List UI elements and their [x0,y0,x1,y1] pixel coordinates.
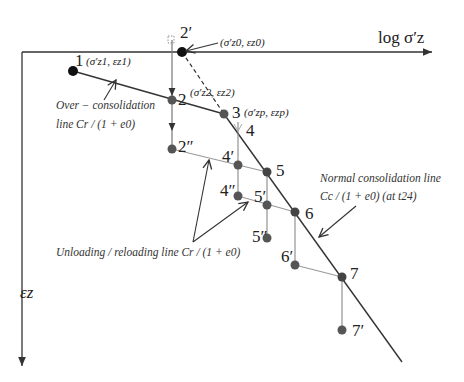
label-2p: 2′ [180,23,192,42]
pointer-unloading-2 [193,202,248,242]
normal-consolidation-text-1: Normal consolidation line [319,172,441,184]
small-marker [168,36,174,43]
normal-consolidation-text-2: Cc / (1 + e0) (at t24) [320,190,417,203]
label-3: 3 [232,103,241,122]
over-consolidation-text-2: line Cr / (1 + e0) [56,118,135,131]
point-3 [220,110,229,119]
point-4p [234,161,243,170]
label-7: 7 [350,264,359,283]
x-axis-label: log σ′z [378,28,425,47]
label-7p: 7′ [352,321,364,340]
label-5p: 5′ [254,187,266,206]
pointer-unloading-1 [193,160,209,242]
consolidation-diagram: log σ′z εz 1 (σ′z1, εz1) 2′ (σ′z0, εz0) … [0,0,464,382]
label-2: 2 [178,90,187,109]
label-2pp: 2″ [178,137,194,156]
label-4: 4 [246,121,255,140]
y-axis-label: εz [20,283,34,302]
label-4pp: 4″ [220,181,236,200]
coord-2p: (σ′z0, εz0) [220,36,265,49]
unloading-reloading-text: Unloading / reloading line Cr / (1 + e0) [56,246,240,259]
coord-2: (σ′z2, εz2) [190,86,235,99]
normal-consolidation-line [224,114,402,362]
point-7 [338,273,347,282]
pointer-2p [186,43,218,51]
point-7p [338,326,347,335]
pointer-over-consolidation [104,80,116,100]
point-2 [168,96,177,105]
label-6p: 6′ [281,247,293,266]
label-1: 1 [75,51,84,70]
label-5: 5 [276,161,285,180]
coord-1: (σ′z1, εz1) [86,55,131,68]
reload-line-6p [295,265,342,277]
dashed-line [182,52,224,114]
label-5pp: 5″ [252,227,268,246]
over-consolidation-text-1: Over − consolidation [56,99,155,111]
label-4p: 4′ [222,147,234,166]
point-6 [291,208,300,217]
coord-3: (σ′zp, εzp) [244,106,289,119]
point-2p [177,47,187,57]
pointer-normal-consolidation [319,206,356,237]
point-2pp [168,145,177,154]
label-6: 6 [305,204,314,223]
point-5 [263,168,272,177]
